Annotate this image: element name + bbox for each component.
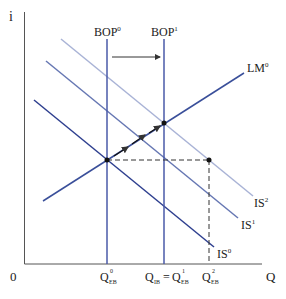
x-tick-q0-eb: Q 0 EB bbox=[100, 268, 117, 285]
svg-text:Q: Q bbox=[202, 270, 211, 284]
svg-text:2: 2 bbox=[212, 268, 215, 274]
is1-label: IS1 bbox=[241, 218, 256, 232]
bop0-label: BOP0 bbox=[94, 25, 121, 39]
is0-label: IS0 bbox=[217, 247, 232, 261]
svg-text:Q: Q bbox=[100, 270, 109, 284]
is-lm-bop-diagram: i Q 0 BOP0 BOP1 LM0 IS2 IS1 IS0 Q 0 EB Q… bbox=[0, 0, 286, 299]
svg-text:EB: EB bbox=[211, 279, 219, 285]
origin-label: 0 bbox=[10, 269, 17, 284]
equilibrium-point-1 bbox=[162, 121, 167, 126]
svg-text:EB: EB bbox=[181, 279, 189, 285]
y-axis-label: i bbox=[9, 9, 13, 24]
svg-text:=: = bbox=[163, 270, 170, 284]
svg-text:Q: Q bbox=[145, 270, 154, 284]
is2-label: IS2 bbox=[254, 196, 269, 210]
is0-curve bbox=[34, 100, 214, 247]
bop1-label: BOP1 bbox=[151, 25, 178, 39]
svg-text:1: 1 bbox=[182, 268, 185, 274]
svg-text:Q: Q bbox=[172, 270, 181, 284]
svg-text:IB: IB bbox=[154, 279, 160, 285]
is2-curve bbox=[61, 39, 253, 196]
lm0-label: LM0 bbox=[247, 61, 269, 75]
lm0-curve bbox=[43, 73, 244, 201]
lm-movement-arrows bbox=[114, 126, 160, 156]
svg-text:0: 0 bbox=[110, 268, 113, 274]
equilibrium-point-2 bbox=[207, 158, 212, 163]
x-tick-q-ib-equals-q1-eb: Q IB = Q 1 EB bbox=[145, 268, 189, 285]
x-tick-q2-eb: Q 2 EB bbox=[202, 268, 219, 285]
equilibrium-point-0 bbox=[105, 158, 110, 163]
x-axis-label: Q bbox=[266, 269, 276, 284]
svg-text:EB: EB bbox=[109, 279, 117, 285]
